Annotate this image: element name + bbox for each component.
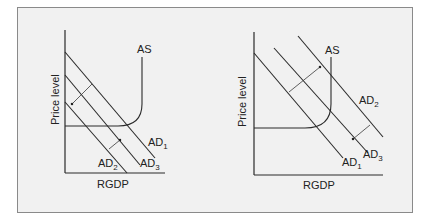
right-y-axis-label: Price level [236, 76, 248, 127]
right-ad3-label: AD3 [363, 148, 383, 163]
right-ad2-label: AD2 [359, 94, 379, 109]
right-ad1-curve [254, 53, 343, 158]
left-ad3-label: AD3 [140, 157, 160, 172]
right-ad1-label: AD1 [342, 156, 362, 171]
right-x-axis-label: RGDP [303, 179, 335, 191]
right-shift-arrow-2 [353, 125, 370, 139]
left-ad3-curve [65, 75, 140, 165]
ad-as-diagrams: AS AD1 AD2 AD3 RGDP Price level AS AD2 A… [0, 0, 427, 224]
left-x-axis-label: RGDP [97, 178, 129, 190]
left-as-label: AS [137, 43, 152, 55]
left-y-axis-label: Price level [49, 74, 61, 125]
left-shift-arrow-2 [109, 140, 120, 149]
left-panel: AS AD1 AD2 AD3 RGDP Price level [49, 30, 168, 190]
right-panel: AS AD2 AD3 AD1 RGDP Price level [236, 32, 383, 191]
left-ad1-label: AD1 [148, 136, 168, 151]
right-as-label: AS [325, 44, 340, 56]
